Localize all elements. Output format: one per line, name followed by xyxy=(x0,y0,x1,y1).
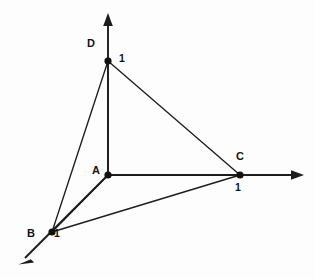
vertex-dot-c xyxy=(236,171,243,178)
vertex-label-a: A xyxy=(92,165,100,176)
vertical-axis-arrowhead xyxy=(103,13,113,26)
diagonal-axis-arrowhead xyxy=(19,259,35,264)
vertex-dot-a xyxy=(104,171,111,178)
axes-group xyxy=(19,13,305,265)
length-label-d: 1 xyxy=(119,53,125,64)
figure-canvas: A D C B 1 1 1 xyxy=(0,0,315,279)
length-label-b: 1 xyxy=(54,228,60,239)
vertex-dot-d xyxy=(104,57,111,64)
edge-d-c xyxy=(108,61,240,175)
edge-d-b xyxy=(52,61,108,232)
vertex-dots-group xyxy=(48,57,243,235)
diagram-svg xyxy=(0,0,315,279)
vertex-label-c: C xyxy=(236,151,244,162)
tetrahedron-edges-group xyxy=(52,61,240,232)
vertex-label-d: D xyxy=(87,38,95,49)
vertex-label-b: B xyxy=(27,228,35,239)
length-label-c: 1 xyxy=(235,182,241,193)
horizontal-axis-arrowhead xyxy=(291,170,304,180)
